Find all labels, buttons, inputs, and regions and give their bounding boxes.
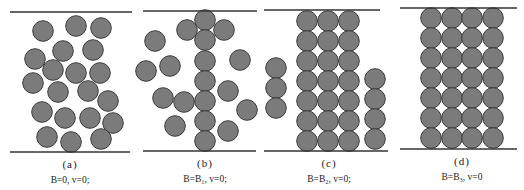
particle bbox=[32, 102, 53, 123]
particle bbox=[136, 61, 157, 82]
particle bbox=[483, 48, 504, 69]
panel-a-label: (a) bbox=[40, 158, 100, 170]
particle bbox=[91, 129, 112, 150]
panel-b-label: (b) bbox=[175, 157, 235, 169]
particle bbox=[318, 51, 339, 72]
particle bbox=[339, 91, 360, 112]
particle bbox=[483, 8, 504, 29]
particle bbox=[90, 63, 111, 84]
particle bbox=[297, 11, 318, 32]
particle bbox=[153, 88, 174, 109]
particle bbox=[442, 68, 463, 89]
particle bbox=[195, 91, 216, 112]
panel-b-caption: B=B₁, v=0; bbox=[145, 174, 265, 184]
particle bbox=[339, 11, 360, 32]
particle bbox=[43, 60, 64, 81]
particle bbox=[421, 8, 442, 29]
particle bbox=[98, 91, 119, 112]
particle bbox=[195, 71, 216, 92]
particle bbox=[462, 108, 483, 129]
particle bbox=[218, 121, 239, 142]
particle bbox=[483, 28, 504, 49]
particle bbox=[421, 28, 442, 49]
particle bbox=[483, 68, 504, 89]
panel-b bbox=[136, 10, 258, 152]
particle bbox=[365, 129, 386, 150]
particle bbox=[442, 88, 463, 109]
particle bbox=[23, 73, 44, 94]
particle bbox=[177, 20, 198, 41]
particle bbox=[442, 128, 463, 149]
particle bbox=[297, 111, 318, 132]
particle bbox=[483, 128, 504, 149]
particle bbox=[297, 51, 318, 72]
particle bbox=[421, 48, 442, 69]
panel-a-caption: B=0, v=0; bbox=[10, 175, 130, 185]
particle bbox=[297, 71, 318, 92]
particle bbox=[195, 51, 216, 72]
particle bbox=[195, 30, 216, 51]
particle bbox=[421, 108, 442, 129]
particle bbox=[91, 18, 112, 39]
particle bbox=[218, 81, 239, 102]
panel-a bbox=[10, 12, 132, 152]
particle bbox=[297, 91, 318, 112]
particle bbox=[33, 21, 54, 42]
particle bbox=[195, 131, 216, 152]
panel-d-caption: B=B₃, v=0 bbox=[402, 172, 522, 182]
particle bbox=[442, 108, 463, 129]
particle bbox=[195, 10, 216, 31]
particle bbox=[483, 88, 504, 109]
particle bbox=[442, 48, 463, 69]
particle bbox=[297, 31, 318, 52]
particle bbox=[230, 50, 251, 71]
particle bbox=[160, 56, 181, 77]
particle bbox=[462, 48, 483, 69]
particle bbox=[365, 89, 386, 110]
particle bbox=[442, 28, 463, 49]
particle bbox=[339, 51, 360, 72]
panel-c-caption: B=B₂, v=0; bbox=[269, 174, 389, 184]
particle bbox=[462, 8, 483, 29]
particle bbox=[83, 40, 104, 61]
panel-d-label: (d) bbox=[432, 155, 492, 167]
particle bbox=[61, 132, 82, 153]
particle bbox=[53, 41, 74, 62]
particle bbox=[318, 131, 339, 152]
particle bbox=[339, 31, 360, 52]
panel-c-label: (c) bbox=[299, 157, 359, 169]
panel-d bbox=[400, 8, 517, 149]
particle bbox=[421, 128, 442, 149]
particle bbox=[165, 116, 186, 137]
particle bbox=[237, 100, 258, 121]
particle bbox=[266, 58, 287, 79]
particle bbox=[266, 78, 287, 99]
particle bbox=[365, 69, 386, 90]
particle bbox=[318, 111, 339, 132]
particle bbox=[66, 63, 87, 84]
particle bbox=[339, 111, 360, 132]
panel-c bbox=[264, 10, 388, 151]
particle bbox=[80, 108, 101, 129]
particle bbox=[442, 8, 463, 29]
particle bbox=[318, 91, 339, 112]
particle bbox=[339, 131, 360, 152]
particle bbox=[78, 81, 99, 102]
particle bbox=[462, 28, 483, 49]
particle bbox=[48, 82, 69, 103]
particle bbox=[421, 68, 442, 89]
particle bbox=[462, 128, 483, 149]
particle bbox=[25, 49, 46, 70]
particle bbox=[37, 127, 58, 148]
particle bbox=[318, 31, 339, 52]
particle bbox=[266, 98, 287, 119]
particle bbox=[145, 31, 166, 52]
particle bbox=[318, 11, 339, 32]
particle bbox=[66, 16, 87, 37]
particle bbox=[462, 88, 483, 109]
particle bbox=[214, 20, 235, 41]
particle bbox=[55, 108, 76, 129]
particle bbox=[421, 88, 442, 109]
particle bbox=[318, 71, 339, 92]
particle bbox=[339, 71, 360, 92]
